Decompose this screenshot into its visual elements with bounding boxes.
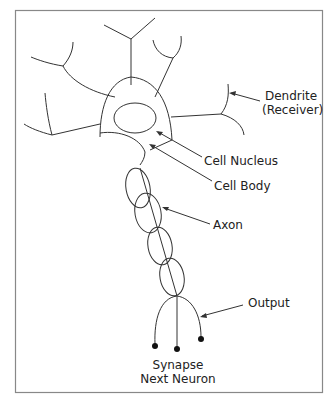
label-synapse: Synapse <box>153 358 204 372</box>
label-next-neuron: Next Neuron <box>140 372 215 386</box>
dendrites <box>24 18 244 135</box>
label-dendrite: Dendrite <box>265 89 317 103</box>
neuron-diagram: Dendrite (Receiver) Cell Nucleus Cell Bo… <box>0 0 336 407</box>
label-cell-nucleus: Cell Nucleus <box>204 154 278 168</box>
axon <box>123 166 187 298</box>
output-terminals <box>152 296 204 352</box>
arrows <box>149 91 260 318</box>
label-receiver: (Receiver) <box>262 103 323 117</box>
label-output: Output <box>248 296 290 310</box>
label-axon: Axon <box>213 218 243 232</box>
label-cell-body: Cell Body <box>214 179 271 193</box>
cell-nucleus <box>114 103 156 133</box>
cell-body <box>100 77 172 165</box>
